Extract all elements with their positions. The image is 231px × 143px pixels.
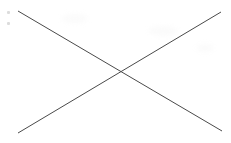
image-canvas: X (0, 0, 231, 143)
speck-upper (7, 11, 10, 14)
diagonal-line-down (18, 11, 222, 131)
speck-lower (7, 22, 10, 25)
x-mark-icon (0, 0, 231, 143)
diagonal-line-up (18, 12, 221, 133)
